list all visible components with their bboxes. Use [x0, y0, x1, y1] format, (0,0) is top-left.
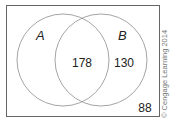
b-only-value: 130 [114, 56, 134, 70]
venn-diagram: A B 178 130 88 [0, 0, 174, 124]
circle-a [17, 14, 109, 106]
copyright-notice: © Cengage Learning 2014 [160, 30, 169, 118]
set-b-label: B [118, 28, 127, 43]
set-a-label: A [35, 28, 45, 43]
intersection-value: 178 [72, 56, 92, 70]
outside-value: 88 [138, 101, 152, 115]
